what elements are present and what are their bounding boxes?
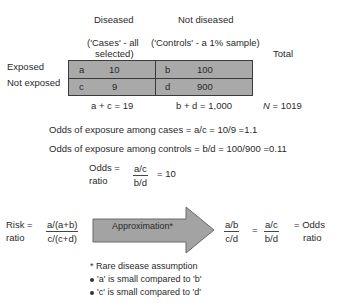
cell-a-value: 10 <box>109 64 120 75</box>
contingency-table: a 10 b 100 c 9 d 900 <box>68 60 253 96</box>
or-label-line2: ratio <box>89 175 107 186</box>
grand-total: N = 1019 <box>263 100 302 111</box>
note-bullet: 'a' is small compared to 'b' <box>90 274 201 284</box>
bullet-icon <box>90 291 94 295</box>
cell-d-value: 900 <box>197 81 213 92</box>
or-fraction: a/c b/d <box>133 163 148 188</box>
header-cases-line2: selected) <box>95 48 134 59</box>
row-label-not-exposed: Not exposed <box>7 77 60 88</box>
cell-c-letter: c <box>79 81 84 92</box>
cases-total: a + c = 19 <box>91 100 133 111</box>
result-line2: ratio <box>303 232 321 243</box>
ab-cd-fraction: a/b c/d <box>224 219 239 244</box>
n-value: = 1019 <box>270 100 302 111</box>
risk-fraction-numerator: a/(a+b) <box>46 219 78 232</box>
row-label-exposed: Exposed <box>7 61 44 72</box>
or-fraction-numerator: a/c <box>133 163 148 176</box>
or-result: = 10 <box>157 168 176 179</box>
odds-cases-line: Odds of exposure among cases = a/c = 10/… <box>49 124 257 135</box>
header-cases-line1: ('Cases' - all <box>87 37 139 48</box>
result-line1: = Odds <box>294 219 325 230</box>
risk-label-line2: ratio <box>6 232 24 243</box>
arrow-label: Approximation* <box>112 221 173 231</box>
equals-sign: = <box>252 224 258 235</box>
odds-controls-line: Odds of exposure among controls = b/d = … <box>49 143 287 154</box>
cell-c-value: 9 <box>112 81 117 92</box>
header-total: Total <box>273 48 293 59</box>
ac-numerator: a/c <box>264 219 279 232</box>
table-divider-horizontal <box>69 78 252 79</box>
risk-fraction-denominator: c/(c+d) <box>46 232 78 244</box>
cell-b-letter: b <box>165 64 170 75</box>
bd-denominator: b/d <box>264 232 279 244</box>
note-bullet: 'c' is small compared to 'd' <box>90 287 201 297</box>
rare-disease-note: * Rare disease assumption <box>90 261 198 271</box>
header-diseased: Diseased <box>94 14 134 25</box>
cell-b-value: 100 <box>197 64 213 75</box>
header-controls: ('Controls' - a 1% sample) <box>151 37 260 48</box>
controls-total: b + d = 1,000 <box>176 100 232 111</box>
or-fraction-denominator: b/d <box>133 176 148 188</box>
risk-fraction: a/(a+b) c/(c+d) <box>46 219 78 244</box>
cd-denominator: c/d <box>224 232 239 244</box>
note-bullet-text: 'a' is small compared to 'b' <box>97 274 201 284</box>
cell-d-letter: d <box>165 81 170 92</box>
ab-numerator: a/b <box>224 219 239 232</box>
bullet-icon <box>90 278 94 282</box>
ac-bd-fraction: a/c b/d <box>264 219 279 244</box>
note-bullet-text: 'c' is small compared to 'd' <box>97 287 201 297</box>
risk-label-line1: Risk = <box>6 219 33 230</box>
header-not-diseased: Not diseased <box>178 14 233 25</box>
cell-a-letter: a <box>79 64 84 75</box>
n-label: N <box>263 100 270 111</box>
or-label-line1: Odds = <box>89 162 120 173</box>
